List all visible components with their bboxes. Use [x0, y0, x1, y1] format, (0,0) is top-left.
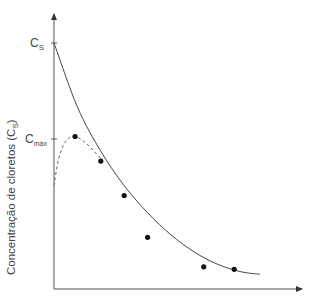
- data-point-4: [201, 264, 206, 269]
- chart: CS Cmáx Concentração de cloretos (CS): [0, 0, 312, 306]
- data-point-3: [145, 235, 150, 240]
- measured-profile-line: [54, 136, 101, 185]
- y-axis-label: Concentração de cloretos (CS): [5, 119, 20, 275]
- data-point-5: [232, 267, 237, 272]
- data-point-2: [122, 193, 127, 198]
- tick-label-cmax: Cmáx: [25, 132, 47, 147]
- data-point-1: [98, 158, 103, 163]
- series-layer: [54, 43, 260, 274]
- data-point-0: [72, 134, 77, 139]
- fitted-curve-line: [54, 43, 260, 274]
- tick-label-cs: CS: [30, 36, 44, 52]
